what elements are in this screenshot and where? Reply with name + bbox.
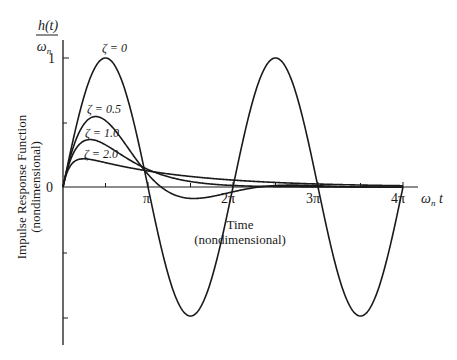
label-zeta-0-5: ζ = 0.5 [87,102,121,116]
label-zeta-1-0: ζ = 1.0 [85,126,119,140]
impulse-response-chart: 1 0 π 2π 3π 4π ωn t Time (nondimensional… [0,0,457,360]
x-axis-title: Time [227,217,254,232]
y-axis-subtitle: (nondimensional) [28,141,43,233]
x-tick-label-3pi: 3π [306,191,320,206]
y-label-numerator: h(t) [38,18,59,34]
y-ticks [63,58,69,318]
y-label-denominator: ωn [37,39,52,56]
x-tick-label-pi: π [143,191,150,206]
label-zeta-2-0: ζ = 2.0 [84,147,118,161]
y-axis-title: Impulse Response Function [14,114,29,259]
x-tick-label-2pi: 2π [221,191,235,206]
x-axis-subtitle: (nondimensional) [194,232,286,247]
x-tick-label-4pi: 4π [391,191,405,206]
y-tick-label-0: 0 [46,180,53,195]
label-zeta-0: ζ = 0 [102,41,127,55]
x-axis-symbol: ωn t [421,191,444,208]
